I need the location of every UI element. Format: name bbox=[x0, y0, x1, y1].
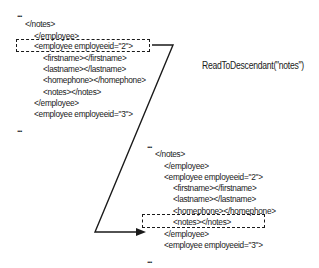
method-label: ReadToDescendant("notes") bbox=[202, 60, 304, 71]
ellipsis-top-before: ... bbox=[17, 10, 22, 18]
xml-line: <notes></notes> bbox=[43, 86, 101, 97]
xml-line: <lastname></lastname> bbox=[43, 63, 126, 74]
xml-line: </employee> bbox=[34, 97, 79, 108]
xml-line: </notes> bbox=[155, 148, 185, 159]
xml-line: </employee> bbox=[164, 228, 209, 239]
arrowhead-icon bbox=[136, 228, 146, 236]
xml-line: </employee> bbox=[164, 160, 209, 171]
xml-line: <employee employeeid="2"> bbox=[164, 171, 263, 182]
ellipsis-bottom-before: ... bbox=[17, 125, 22, 133]
xml-line: <lastname></lastname> bbox=[173, 193, 256, 204]
xml-line: <employee employeeid="3"> bbox=[34, 108, 133, 119]
xml-line: <homephone></homephone> bbox=[43, 74, 146, 85]
highlight-box-start-node bbox=[16, 39, 150, 52]
xml-line: <firstname></firstname> bbox=[173, 182, 257, 193]
highlight-box-end-node bbox=[142, 214, 265, 228]
xml-line: </notes> bbox=[25, 18, 55, 29]
ellipsis-bottom-after: ... bbox=[147, 256, 152, 264]
xml-line: <employee employeeid="3"> bbox=[164, 239, 263, 250]
xml-line: <firstname></firstname> bbox=[43, 52, 127, 63]
ellipsis-top-after: ... bbox=[147, 141, 152, 149]
